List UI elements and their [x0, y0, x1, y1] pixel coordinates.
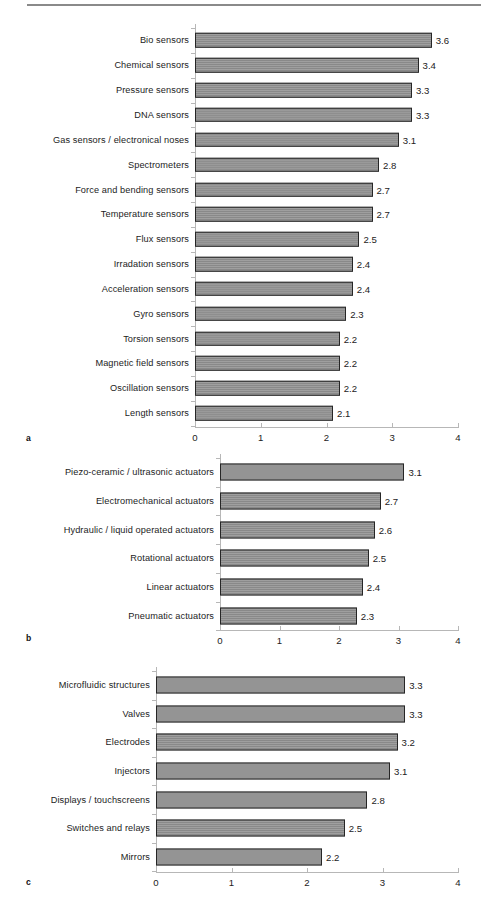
y-axis-tick — [191, 227, 195, 228]
category-label: Electrodes — [0, 737, 150, 748]
x-axis-tick-label: 2 — [317, 432, 337, 443]
bar-row: Magnetic field sensors2.2 — [0, 351, 481, 376]
bar-value-label: 2.5 — [373, 553, 386, 564]
y-axis-tick — [152, 671, 156, 672]
bar — [195, 58, 419, 73]
category-label: Injectors — [0, 766, 150, 777]
bar-row: Gas sensors / electronical noses3.1 — [0, 127, 481, 152]
category-label: Hydraulic / liquid operated actuators — [0, 524, 214, 535]
bar-row: Hydraulic / liquid operated actuators2.6 — [0, 515, 481, 544]
y-axis-tick — [191, 351, 195, 352]
x-axis-line-c — [156, 872, 459, 873]
panel-letter-c: c — [26, 877, 31, 887]
bar-value-label: 3.1 — [408, 467, 421, 478]
bar-row: Microfluidic structures3.3 — [0, 671, 481, 700]
bar — [195, 108, 412, 123]
bar — [195, 406, 333, 421]
bar-value-label: 2.7 — [385, 496, 398, 507]
bar-value-label: 3.3 — [416, 109, 429, 120]
x-axis-tick — [383, 868, 384, 872]
bar — [195, 232, 359, 247]
y-axis-tick — [216, 602, 220, 603]
bar-row: Length sensors2.1 — [0, 401, 481, 426]
bar-row: Valves3.3 — [0, 700, 481, 729]
bar-row: Temperature sensors2.7 — [0, 202, 481, 227]
category-label: Pressure sensors — [0, 85, 189, 96]
category-label: Linear actuators — [0, 582, 214, 593]
y-axis-tick — [216, 573, 220, 574]
bar — [156, 677, 405, 694]
bar-row: Mirrors2.2 — [0, 843, 481, 872]
y-axis-tick — [191, 277, 195, 278]
category-label: Piezo-ceramic / ultrasonic actuators — [0, 467, 214, 478]
x-axis-tick-label: 2 — [297, 877, 317, 888]
x-axis-tick-label: 1 — [270, 635, 290, 646]
category-label: Microfluidic structures — [0, 680, 150, 691]
x-axis-tick-label: 4 — [448, 877, 468, 888]
bar — [156, 763, 390, 780]
category-label: Force and bending sensors — [0, 184, 189, 195]
page-top-rule — [27, 4, 481, 6]
bar-value-label: 2.2 — [344, 358, 357, 369]
bar — [195, 307, 346, 322]
bar-value-label: 2.1 — [337, 408, 350, 419]
y-axis-tick — [191, 401, 195, 402]
y-axis-tick — [152, 700, 156, 701]
bar-value-label: 2.8 — [371, 794, 384, 805]
x-axis-tick-label: 0 — [185, 432, 205, 443]
x-axis-tick — [156, 868, 157, 872]
y-axis-tick — [191, 152, 195, 153]
x-axis-tick-label: 0 — [146, 877, 166, 888]
y-axis-tick — [191, 127, 195, 128]
x-axis-tick-label: 3 — [382, 432, 402, 443]
panel-letter-b: b — [26, 633, 31, 643]
bar-value-label: 2.5 — [363, 234, 376, 245]
y-axis-tick — [152, 785, 156, 786]
bar — [195, 207, 373, 222]
bar — [195, 356, 340, 371]
bar — [195, 381, 340, 396]
bar-value-label: 3.3 — [409, 708, 422, 719]
bar-row: Gyro sensors2.3 — [0, 301, 481, 326]
x-axis-tick-label: 1 — [222, 877, 242, 888]
bar-value-label: 2.6 — [379, 524, 392, 535]
x-axis-tick — [261, 423, 262, 427]
bar-value-label: 3.2 — [402, 737, 415, 748]
x-axis-tick — [307, 868, 308, 872]
category-label: Magnetic field sensors — [0, 358, 189, 369]
x-axis-tick-label: 1 — [251, 432, 271, 443]
category-label: Torsion sensors — [0, 333, 189, 344]
bar — [156, 820, 345, 837]
x-axis-tick — [339, 626, 340, 630]
x-axis-line-a — [195, 427, 459, 428]
bar — [195, 33, 432, 48]
bar-value-label: 2.4 — [357, 283, 370, 294]
bar — [220, 464, 404, 481]
category-label: Length sensors — [0, 408, 189, 419]
category-label: Irradation sensors — [0, 259, 189, 270]
y-axis-tick — [191, 103, 195, 104]
category-label: Mirrors — [0, 851, 150, 862]
x-axis-tick — [458, 868, 459, 872]
bar — [156, 791, 367, 808]
category-label: DNA sensors — [0, 109, 189, 120]
bar — [220, 521, 375, 538]
bar-row: Piezo-ceramic / ultrasonic actuators3.1 — [0, 458, 481, 487]
bar — [195, 157, 379, 172]
bar — [195, 182, 373, 197]
bar-row: DNA sensors3.3 — [0, 103, 481, 128]
bar-row: Displays / touchscreens2.8 — [0, 785, 481, 814]
category-label: Gas sensors / electronical noses — [0, 134, 189, 145]
bar-row: Flux sensors2.5 — [0, 227, 481, 252]
x-axis-tick — [327, 423, 328, 427]
category-label: Temperature sensors — [0, 209, 189, 220]
category-label: Flux sensors — [0, 234, 189, 245]
x-axis-tick — [399, 626, 400, 630]
y-axis-tick — [152, 728, 156, 729]
bar — [156, 848, 322, 865]
bar — [195, 282, 353, 297]
bar — [195, 257, 353, 272]
bar-row: Injectors3.1 — [0, 757, 481, 786]
y-axis-tick — [191, 252, 195, 253]
y-axis-tick — [216, 544, 220, 545]
